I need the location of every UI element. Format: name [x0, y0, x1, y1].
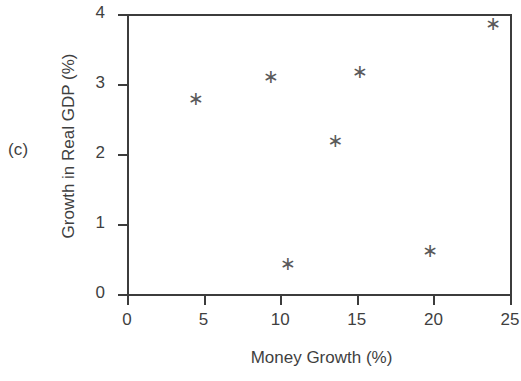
x-axis-tick-label: 15	[337, 310, 377, 330]
x-axis-tick: 10	[280, 295, 282, 305]
y-axis-tick: 3	[118, 84, 128, 86]
x-axis-tick-label: 25	[490, 310, 521, 330]
y-axis-title: Growth in Real GDP (%)	[59, 11, 79, 281]
x-axis-tick: 5	[204, 295, 206, 305]
data-point-marker: ∗	[352, 62, 368, 80]
y-axis-tick-label: 3	[96, 73, 105, 93]
y-axis-tick: 4	[118, 14, 128, 16]
y-axis-tick: 1	[118, 224, 128, 226]
y-axis-tick: 2	[118, 154, 128, 156]
y-axis-tick-label: 0	[96, 283, 105, 303]
data-point-marker: ∗	[485, 14, 501, 32]
y-axis-tick-label: 2	[96, 143, 105, 163]
axis-right-spine	[510, 14, 512, 296]
data-point-marker: ∗	[422, 241, 438, 259]
x-axis-tick-label: 10	[260, 310, 300, 330]
x-axis-title: Money Growth (%)	[127, 348, 516, 368]
y-axis-tick-label: 1	[96, 213, 105, 233]
x-axis-tick-label: 20	[413, 310, 453, 330]
data-point-marker: ∗	[263, 67, 279, 85]
data-point-marker: ∗	[280, 254, 296, 272]
data-point-marker: ∗	[327, 131, 343, 149]
x-axis-tick: 0	[127, 295, 129, 305]
x-axis-tick-label: 5	[184, 310, 224, 330]
axis-bottom-spine	[127, 294, 512, 296]
x-axis-tick: 15	[357, 295, 359, 305]
scatter-chart-figure: (c) Growth in Real GDP (%) 01234 0510152…	[0, 0, 521, 381]
axis-top-spine	[127, 14, 512, 16]
panel-label: (c)	[8, 140, 28, 160]
x-axis-tick: 25	[510, 295, 512, 305]
x-axis-tick: 20	[433, 295, 435, 305]
data-point-marker: ∗	[188, 89, 204, 107]
x-axis-tick-label: 0	[107, 310, 147, 330]
y-axis-tick-label: 4	[96, 3, 105, 23]
plot-area: 01234 0510152025 ∗∗∗∗∗∗∗	[127, 14, 511, 295]
